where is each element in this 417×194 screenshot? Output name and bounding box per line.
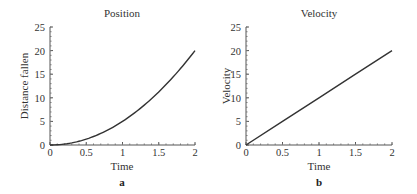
- y-tick-label: 15: [35, 69, 46, 80]
- y-tick-label: 25: [231, 22, 242, 33]
- y-tick-label: 25: [35, 22, 46, 33]
- x-tick-label: 0: [47, 147, 52, 158]
- panel-label: b: [316, 176, 322, 188]
- y-tick-label: 20: [35, 46, 46, 57]
- y-axis: 0510152025: [231, 22, 250, 151]
- x-axis: 00.511.52: [243, 142, 394, 158]
- y-tick-label: 10: [35, 93, 46, 104]
- x-tick-label: 1: [120, 147, 125, 158]
- y-tick-label: 5: [236, 116, 241, 127]
- x-axis-label: Time: [111, 160, 134, 172]
- velocity-chart: Velocity 0510152025 00.511.52 Time Veloc…: [220, 7, 395, 188]
- x-axis: 00.511.52: [47, 142, 197, 158]
- position-curve: [50, 51, 195, 145]
- chart-title: Velocity: [301, 7, 338, 19]
- panel-label: a: [119, 176, 125, 188]
- x-tick-label: 2: [192, 147, 197, 158]
- x-tick-label: 0: [243, 147, 248, 158]
- x-tick-label: 1.5: [349, 147, 362, 158]
- y-axis-label: Distance fallen: [18, 52, 30, 119]
- chart-title: Position: [104, 7, 141, 19]
- y-tick-label: 10: [231, 93, 242, 104]
- y-tick-label: 0: [40, 140, 45, 151]
- x-tick-label: 1: [316, 147, 321, 158]
- x-tick-label: 0.5: [80, 147, 93, 158]
- position-chart: Position 0510152025 00.511.52 Time Dista…: [18, 7, 198, 188]
- y-axis: 0510152025: [35, 22, 54, 151]
- x-tick-label: 0.5: [276, 147, 289, 158]
- x-tick-label: 2: [389, 147, 394, 158]
- y-tick-label: 0: [236, 140, 241, 151]
- velocity-line: [246, 51, 392, 145]
- y-tick-label: 15: [231, 69, 242, 80]
- y-axis-label: Velocity: [220, 67, 232, 104]
- x-tick-label: 1.5: [152, 147, 165, 158]
- figure: Position 0510152025 00.511.52 Time Dista…: [0, 0, 417, 194]
- x-axis-label: Time: [308, 160, 331, 172]
- y-tick-label: 20: [231, 46, 242, 57]
- y-tick-label: 5: [40, 116, 45, 127]
